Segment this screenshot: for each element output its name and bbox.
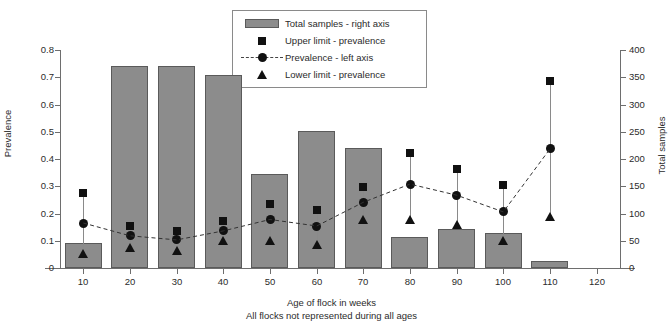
lower-limit-marker — [218, 236, 228, 245]
prevalence-marker — [312, 222, 321, 231]
x-tick — [83, 269, 84, 274]
y-tick-label-left: 0.4 — [12, 154, 54, 164]
x-tick-label: 110 — [530, 277, 570, 287]
x-tick — [410, 269, 411, 274]
x-axis-line — [45, 268, 635, 269]
legend-label: Lower limit - prevalence — [285, 69, 385, 80]
prevalence-marker — [79, 219, 88, 228]
legend-label: Prevalence - left axis — [285, 52, 373, 63]
prevalence-marker — [452, 191, 461, 200]
y-tick-left — [55, 186, 60, 187]
prevalence-marker — [266, 215, 275, 224]
legend-label: Total samples - right axis — [285, 18, 390, 29]
x-axis-title: Age of flock in weeks — [0, 297, 663, 308]
upper-limit-marker — [126, 222, 134, 230]
legend-item-prevalence: Prevalence - left axis — [239, 49, 420, 66]
y-tick-right — [621, 50, 626, 51]
chart-legend: Total samples - right axis Upper limit -… — [232, 10, 427, 88]
lower-limit-marker — [405, 215, 415, 224]
lower-limit-marker — [312, 240, 322, 249]
y-tick-left — [55, 105, 60, 106]
y-tick-label-left: 0.8 — [12, 45, 54, 55]
y-tick-right — [621, 132, 626, 133]
x-tick-label: 120 — [577, 277, 617, 287]
legend-item-total-samples: Total samples - right axis — [239, 15, 420, 32]
y-tick-right — [621, 159, 626, 160]
x-tick — [597, 269, 598, 274]
legend-item-lower-limit: Lower limit - prevalence — [239, 66, 420, 83]
y-tick-label-left: 0.1 — [12, 236, 54, 246]
bar-swatch-icon — [239, 19, 285, 28]
y-tick-label-right: 0 — [629, 263, 669, 273]
y-tick-label-left: 0.2 — [12, 209, 54, 219]
x-tick — [550, 269, 551, 274]
lower-limit-marker — [78, 249, 88, 258]
lower-limit-marker — [125, 243, 135, 252]
y-tick-label-right: 150 — [629, 181, 669, 191]
x-tick-label: 70 — [343, 277, 383, 287]
y-tick-left — [55, 214, 60, 215]
x-tick — [223, 269, 224, 274]
upper-limit-marker — [406, 149, 414, 157]
y-tick-label-right: 400 — [629, 45, 669, 55]
y-tick-label-left: 0.3 — [12, 181, 54, 191]
bar — [531, 261, 568, 268]
lower-limit-marker — [452, 220, 462, 229]
square-marker-icon — [239, 37, 285, 45]
upper-limit-marker — [79, 189, 87, 197]
legend-item-upper-limit: Upper limit - prevalence — [239, 32, 420, 49]
x-tick — [270, 269, 271, 274]
prevalence-marker — [126, 231, 135, 240]
y-tick-label-left: 0.5 — [12, 127, 54, 137]
y-tick-left — [55, 77, 60, 78]
y-tick-left — [55, 132, 60, 133]
x-tick — [317, 269, 318, 274]
lower-limit-marker — [172, 246, 182, 255]
x-tick-label: 60 — [297, 277, 337, 287]
x-tick-label: 50 — [250, 277, 290, 287]
y-tick-left — [55, 159, 60, 160]
prevalence-marker — [546, 144, 555, 153]
lower-limit-marker — [545, 212, 555, 221]
upper-limit-marker — [173, 227, 181, 235]
x-tick — [503, 269, 504, 274]
y-tick-right — [621, 268, 626, 269]
upper-limit-marker — [453, 165, 461, 173]
x-tick — [177, 269, 178, 274]
upper-limit-marker — [219, 217, 227, 225]
x-tick-label: 80 — [390, 277, 430, 287]
upper-limit-marker — [266, 200, 274, 208]
y-tick-label-right: 100 — [629, 209, 669, 219]
y-tick-label-right: 300 — [629, 100, 669, 110]
x-axis-note: All flocks not represented during all ag… — [0, 310, 663, 321]
y-axis-left-line — [60, 50, 61, 269]
x-tick-label: 30 — [157, 277, 197, 287]
legend-label: Upper limit - prevalence — [285, 35, 385, 46]
triangle-marker-icon — [239, 70, 285, 79]
lower-limit-marker — [265, 236, 275, 245]
y-tick-right — [621, 105, 626, 106]
y-axis-left-title: Prevalence — [2, 110, 13, 158]
lower-limit-marker — [358, 215, 368, 224]
y-tick-label-left: 0.7 — [12, 72, 54, 82]
x-tick-label: 20 — [110, 277, 150, 287]
y-tick-label-left: 0 — [12, 263, 54, 273]
y-tick-label-left: 0.6 — [12, 100, 54, 110]
y-tick-left — [55, 50, 60, 51]
upper-limit-marker — [359, 183, 367, 191]
x-tick-label: 90 — [437, 277, 477, 287]
upper-limit-marker — [546, 77, 554, 85]
prevalence-marker — [359, 198, 368, 207]
x-tick-label: 100 — [483, 277, 523, 287]
bar — [438, 229, 475, 268]
y-tick-left — [55, 241, 60, 242]
x-tick — [363, 269, 364, 274]
y-tick-label-right: 50 — [629, 236, 669, 246]
y-tick-label-right: 350 — [629, 72, 669, 82]
prevalence-marker — [499, 207, 508, 216]
y-tick-right — [621, 214, 626, 215]
y-axis-right-title: Total samples — [656, 116, 667, 174]
y-tick-left — [55, 268, 60, 269]
upper-limit-marker — [313, 206, 321, 214]
